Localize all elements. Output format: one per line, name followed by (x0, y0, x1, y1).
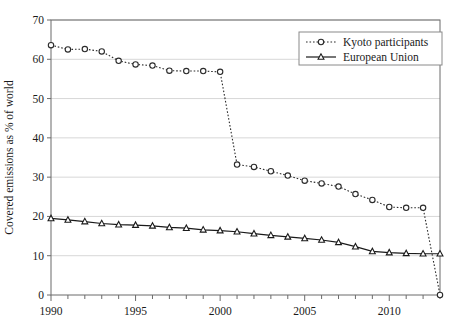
data-point-kyoto-participants-22 (420, 205, 425, 210)
data-point-european-union-17 (336, 239, 342, 245)
data-point-european-union-5 (133, 222, 139, 228)
x-axis-ticks: 19901995200020052010 (40, 295, 441, 317)
data-point-kyoto-participants-23 (437, 292, 442, 297)
x-tick-label-1995: 1995 (124, 305, 147, 317)
data-point-kyoto-participants-5 (133, 62, 138, 67)
data-point-kyoto-participants-14 (285, 173, 290, 178)
data-point-european-union-1 (65, 217, 71, 223)
data-point-european-union-15 (302, 235, 308, 241)
data-point-kyoto-participants-12 (251, 164, 256, 169)
data-point-european-union-16 (319, 237, 325, 243)
data-point-kyoto-participants-17 (336, 184, 341, 189)
data-point-european-union-8 (183, 225, 189, 231)
data-point-kyoto-participants-0 (48, 42, 53, 47)
legend-label-european-union: European Union (343, 51, 419, 64)
data-point-kyoto-participants-15 (302, 178, 307, 183)
chart-figure: 010203040506070 19901995200020052010 Cov… (0, 0, 453, 323)
data-point-european-union-6 (150, 223, 156, 229)
data-point-european-union-19 (369, 248, 375, 254)
data-point-european-union-18 (352, 243, 358, 249)
y-tick-label-0: 0 (38, 289, 44, 301)
data-point-european-union-7 (166, 224, 172, 230)
data-point-kyoto-participants-13 (268, 169, 273, 174)
data-point-european-union-11 (234, 229, 240, 235)
data-point-kyoto-participants-19 (370, 197, 375, 202)
data-point-kyoto-participants-1 (65, 47, 70, 52)
data-point-kyoto-participants-11 (234, 162, 239, 167)
data-point-european-union-20 (386, 249, 392, 255)
series-kyoto-participants (48, 42, 442, 297)
data-point-european-union-23 (437, 251, 443, 256)
data-point-european-union-9 (200, 227, 206, 233)
data-point-kyoto-participants-7 (167, 68, 172, 73)
y-tick-label-50: 50 (33, 93, 45, 105)
data-point-kyoto-participants-6 (150, 63, 155, 68)
data-point-kyoto-participants-21 (403, 205, 408, 210)
series-path-european-union (51, 218, 440, 253)
x-tick-label-2010: 2010 (378, 305, 401, 317)
data-point-european-union-21 (403, 250, 409, 256)
data-point-kyoto-participants-10 (217, 69, 222, 74)
data-point-european-union-4 (116, 221, 122, 227)
data-point-european-union-22 (420, 251, 426, 256)
data-point-kyoto-participants-legend (318, 39, 323, 44)
data-point-kyoto-participants-4 (116, 58, 121, 63)
data-point-kyoto-participants-3 (99, 49, 104, 54)
x-tick-label-2000: 2000 (209, 305, 232, 317)
data-point-kyoto-participants-9 (201, 68, 206, 73)
y-tick-label-20: 20 (33, 210, 45, 222)
data-point-european-union-13 (268, 232, 274, 238)
data-point-european-union-2 (82, 218, 88, 224)
series-path-kyoto-participants (51, 45, 440, 295)
data-point-kyoto-participants-18 (353, 191, 358, 196)
y-axis-title-text: Covered emissions as % of world (3, 80, 15, 235)
chart-canvas: 010203040506070 19901995200020052010 Cov… (0, 0, 453, 323)
data-point-kyoto-participants-8 (184, 68, 189, 73)
x-tick-label-1990: 1990 (40, 305, 63, 317)
y-tick-label-40: 40 (33, 132, 45, 144)
x-tick-label-2005: 2005 (293, 305, 316, 317)
data-point-kyoto-participants-16 (319, 181, 324, 186)
y-axis-title: Covered emissions as % of world (3, 80, 15, 235)
y-tick-label-10: 10 (33, 250, 45, 262)
legend-label-kyoto-participants: Kyoto participants (343, 36, 429, 49)
data-point-european-union-3 (99, 220, 105, 226)
chart-legend: Kyoto participantsEuropean Union (299, 32, 442, 65)
y-axis-ticks: 010203040506070 (33, 14, 52, 301)
series-european-union (48, 215, 443, 256)
data-point-european-union-10 (217, 227, 223, 233)
data-point-kyoto-participants-2 (82, 46, 87, 51)
y-tick-label-60: 60 (33, 53, 45, 65)
data-point-european-union-12 (251, 231, 257, 237)
data-point-kyoto-participants-20 (387, 204, 392, 209)
y-tick-label-70: 70 (33, 14, 45, 26)
y-tick-label-30: 30 (33, 171, 45, 183)
data-point-european-union-14 (285, 234, 291, 240)
